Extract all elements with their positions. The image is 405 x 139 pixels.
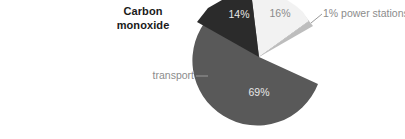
transport-callout-label: transport xyxy=(153,69,195,81)
carbon-monoxide-pie-chart: Carbon monoxide 69% 16% 14% 1% power sta… xyxy=(0,0,405,139)
slice-value-other: 16% xyxy=(269,7,290,19)
slice-value-transport: 69% xyxy=(248,86,269,98)
power-stations-callout-label: 1% power stations xyxy=(323,7,405,19)
pie-svg: 69% 16% 14% 1% power stations transport xyxy=(0,0,405,139)
slice-value-industry: 14% xyxy=(228,8,249,20)
power-stations-leader-line xyxy=(311,14,322,23)
